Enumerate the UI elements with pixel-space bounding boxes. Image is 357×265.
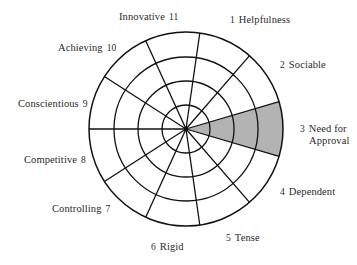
label-dependent: 4Dependent xyxy=(276,186,335,198)
segment-name-line2: Approval xyxy=(296,135,349,146)
segment-number: 4 xyxy=(280,187,285,197)
label-tense: 5Tense xyxy=(222,232,260,244)
segment-name: Tense xyxy=(235,232,260,243)
label-controlling: Controlling7 xyxy=(52,203,114,215)
segment-number: 2 xyxy=(280,60,285,70)
center-hub xyxy=(184,127,188,131)
label-conscientious: Conscientious9 xyxy=(18,98,92,110)
label-helpfulness: 1Helpfulness xyxy=(226,14,290,26)
segment-number: 6 xyxy=(151,242,156,252)
segment-name: Conscientious xyxy=(18,98,79,109)
segment-name: Competitive xyxy=(24,154,77,165)
segment-number: 10 xyxy=(107,43,117,53)
segment-number: 5 xyxy=(226,233,231,243)
segment-name: Need for xyxy=(309,123,347,134)
segment-number: 9 xyxy=(83,99,88,109)
segment-number: 3 xyxy=(300,124,305,134)
segment-name: Achieving xyxy=(58,42,103,53)
label-need-for-approval: 3Need for Approval xyxy=(296,123,349,146)
segment-name: Controlling xyxy=(52,203,102,214)
segment-number: 8 xyxy=(81,155,86,165)
label-rigid: 6Rigid xyxy=(147,241,184,253)
label-sociable: 2Sociable xyxy=(276,59,326,71)
segment-name: Dependent xyxy=(289,186,335,197)
label-achieving: Achieving10 xyxy=(58,42,120,54)
segment-name: Helpfulness xyxy=(239,14,290,25)
segment-name: Rigid xyxy=(160,241,184,252)
label-innovative: Innovative11 xyxy=(119,11,182,23)
segment-name: Innovative xyxy=(119,11,165,22)
segment-number: 11 xyxy=(169,12,178,22)
segment-name: Sociable xyxy=(289,59,326,70)
label-competitive: Competitive8 xyxy=(24,154,90,166)
segment-number: 1 xyxy=(230,15,235,25)
segment-number: 7 xyxy=(106,204,111,214)
